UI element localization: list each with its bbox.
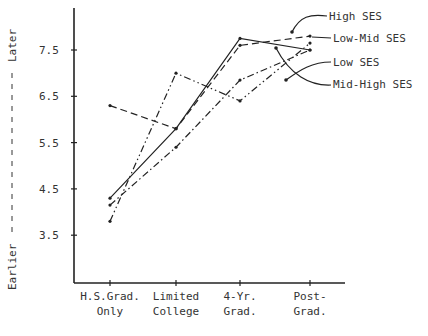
y-label-later: Later	[6, 29, 19, 62]
x-tick-label: 4-Yr.	[223, 290, 256, 303]
leader-line	[292, 15, 327, 32]
leader-line	[312, 37, 331, 38]
y-tick-label: 3.5	[39, 229, 59, 242]
data-point	[308, 35, 311, 38]
data-point	[174, 146, 177, 149]
data-point	[238, 37, 241, 40]
y-tick-label: 5.5	[39, 137, 59, 150]
series-lines	[108, 35, 311, 223]
x-tick-label: Limited	[153, 290, 199, 303]
line-chart: 3.54.55.56.57.5EarlierLaterH.S.Grad.Only…	[0, 0, 428, 336]
x-tick-label: Grad.	[223, 305, 256, 318]
arrow-head-icon	[290, 30, 294, 34]
data-point	[238, 44, 241, 47]
legend-text: Low-Mid SES	[333, 32, 406, 45]
series-low-ses	[110, 50, 310, 205]
y-label-earlier: Earlier	[6, 243, 19, 290]
data-point	[238, 99, 241, 102]
data-point	[108, 220, 111, 223]
data-point	[238, 78, 241, 81]
data-point	[308, 41, 311, 44]
legend-text: Low SES	[333, 56, 379, 69]
y-axis-label: EarlierLater	[6, 29, 19, 290]
arrow-head-icon	[284, 78, 288, 82]
data-point	[174, 72, 177, 75]
y-tick-label: 7.5	[39, 44, 59, 57]
x-tick-label: College	[153, 305, 199, 318]
legend-text: Mid-High SES	[333, 78, 412, 91]
data-point	[108, 204, 111, 207]
leader-line	[276, 48, 331, 85]
y-tick-label: 6.5	[39, 90, 59, 103]
x-tick-label: H.S.Grad.	[80, 290, 140, 303]
series-low-mid-ses	[110, 36, 310, 129]
series-mid-high-ses	[110, 43, 310, 221]
legend-text: High SES	[329, 10, 382, 23]
x-tick-label: Grad.	[293, 305, 326, 318]
y-tick-label: 4.5	[39, 183, 59, 196]
x-tick-label: Only	[97, 305, 124, 318]
axes: 3.54.55.56.57.5EarlierLaterH.S.Grad.Only…	[6, 8, 345, 318]
legend-annotations: High SESLow-Mid SESLow SESMid-High SES	[274, 10, 412, 91]
data-point	[108, 197, 111, 200]
data-point	[308, 48, 311, 51]
x-tick-label: Post-	[293, 290, 326, 303]
arrow-head-icon	[274, 46, 278, 50]
legend-label-high-ses: High SES	[290, 10, 382, 34]
data-point	[108, 104, 111, 107]
legend-label-low-mid-ses: Low-Mid SES	[312, 32, 406, 45]
data-point	[174, 127, 177, 130]
